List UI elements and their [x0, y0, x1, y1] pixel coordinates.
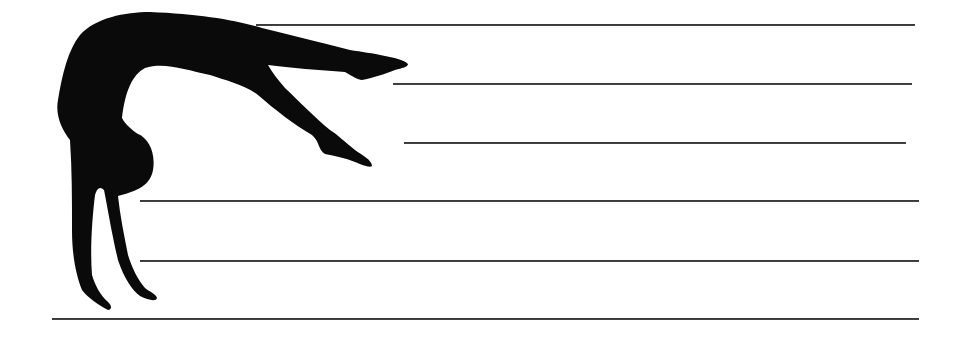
writing-line-5[interactable]: [140, 260, 919, 262]
gymnast-silhouette-icon: [0, 0, 961, 348]
writing-line-2[interactable]: [393, 83, 912, 85]
writing-line-3[interactable]: [404, 142, 906, 144]
worksheet-page: [0, 0, 961, 348]
writing-line-1[interactable]: [256, 24, 915, 26]
writing-line-6[interactable]: [52, 318, 919, 320]
writing-line-4[interactable]: [140, 200, 919, 202]
